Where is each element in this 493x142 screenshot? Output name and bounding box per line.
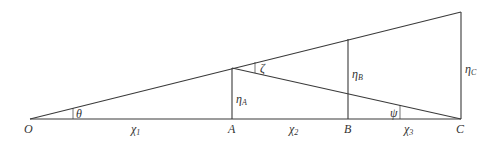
zeta-angle-label: ζ [260, 62, 265, 74]
chi2-label: χ2 [289, 123, 298, 137]
point-B-label: B [344, 123, 351, 135]
point-A-label: A [228, 123, 235, 135]
etaA-label: ηA [236, 93, 247, 107]
diagonal-A-to-C [232, 68, 461, 119]
chi3-label: χ3 [404, 123, 413, 137]
psi-angle-label: ψ [390, 107, 397, 119]
point-C-label: C [456, 123, 464, 135]
etaB-label: ηB [352, 68, 363, 82]
chi1-label: χ1 [131, 123, 140, 137]
etaC-label: ηC [465, 63, 476, 77]
geometry-lines [0, 0, 493, 142]
point-O-label: O [24, 123, 33, 135]
diagram: O A B C χ1 χ2 χ3 ηA ηB ηC θ ζ ψ [0, 0, 493, 142]
theta-angle-label: θ [76, 108, 82, 120]
